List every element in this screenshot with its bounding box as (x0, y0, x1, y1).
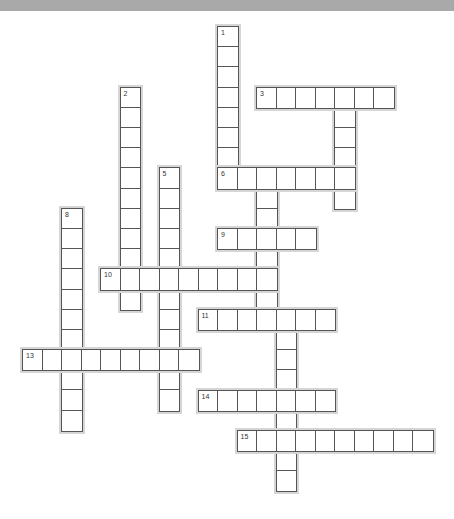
crossword-cell[interactable] (277, 370, 297, 390)
crossword-cell[interactable] (335, 168, 355, 188)
crossword-cell[interactable] (296, 391, 316, 411)
crossword-cell[interactable] (277, 88, 297, 108)
crossword-cell[interactable] (121, 229, 141, 249)
crossword-cell[interactable] (394, 431, 414, 451)
crossword-cell[interactable] (62, 269, 82, 289)
crossword-cell[interactable] (257, 168, 277, 188)
crossword-cell[interactable] (160, 229, 180, 249)
crossword-cell[interactable] (238, 168, 258, 188)
crossword-cell[interactable] (160, 209, 180, 229)
crossword-cell[interactable] (277, 391, 297, 411)
crossword-cell[interactable] (62, 330, 82, 350)
crossword-cell[interactable] (316, 310, 336, 330)
crossword-cell[interactable] (257, 249, 277, 269)
crossword-cell[interactable] (218, 47, 238, 67)
crossword-cell[interactable] (62, 249, 82, 269)
crossword-cell[interactable] (413, 431, 433, 451)
crossword-cell[interactable] (218, 310, 238, 330)
crossword-cell[interactable] (277, 168, 297, 188)
crossword-cell[interactable] (218, 108, 238, 128)
crossword-cell[interactable]: 8 (62, 209, 82, 229)
crossword-cell[interactable] (160, 310, 180, 330)
crossword-cell[interactable] (335, 88, 355, 108)
crossword-cell[interactable] (218, 67, 238, 87)
crossword-cell[interactable] (121, 189, 141, 209)
crossword-cell[interactable] (257, 229, 277, 249)
crossword-cell[interactable] (62, 411, 82, 431)
crossword-cell[interactable] (335, 108, 355, 128)
crossword-cell[interactable] (335, 148, 355, 168)
crossword-cell[interactable] (160, 189, 180, 209)
crossword-cell[interactable] (62, 229, 82, 249)
crossword-cell[interactable] (121, 209, 141, 229)
crossword-cell[interactable]: 5 (160, 168, 180, 188)
crossword-cell[interactable] (160, 290, 180, 310)
crossword-cell[interactable] (257, 290, 277, 310)
crossword-cell[interactable] (121, 350, 141, 370)
crossword-cell[interactable] (296, 168, 316, 188)
crossword-cell[interactable] (160, 330, 180, 350)
crossword-cell[interactable] (355, 88, 375, 108)
crossword-cell[interactable] (277, 451, 297, 471)
crossword-cell[interactable] (43, 350, 63, 370)
crossword-cell[interactable] (277, 431, 297, 451)
crossword-cell[interactable] (238, 269, 258, 289)
crossword-cell[interactable] (316, 88, 336, 108)
crossword-cell[interactable] (160, 249, 180, 269)
crossword-cell[interactable] (374, 431, 394, 451)
crossword-cell[interactable] (199, 269, 219, 289)
crossword-cell[interactable] (238, 310, 258, 330)
crossword-cell[interactable] (316, 431, 336, 451)
crossword-cell[interactable] (218, 269, 238, 289)
crossword-cell[interactable] (121, 168, 141, 188)
crossword-cell[interactable] (101, 350, 121, 370)
crossword-cell[interactable]: 10 (101, 269, 121, 289)
crossword-cell[interactable] (374, 88, 394, 108)
crossword-cell[interactable] (179, 269, 199, 289)
crossword-cell[interactable] (257, 189, 277, 209)
crossword-cell[interactable]: 3 (257, 88, 277, 108)
crossword-cell[interactable]: 14 (199, 391, 219, 411)
crossword-cell[interactable] (257, 431, 277, 451)
crossword-cell[interactable] (160, 269, 180, 289)
crossword-cell[interactable] (335, 128, 355, 148)
crossword-cell[interactable] (62, 310, 82, 330)
crossword-cell[interactable]: 2 (121, 88, 141, 108)
crossword-cell[interactable] (277, 310, 297, 330)
crossword-cell[interactable] (218, 148, 238, 168)
crossword-cell[interactable] (62, 350, 82, 370)
crossword-cell[interactable] (296, 229, 316, 249)
crossword-cell[interactable]: 15 (238, 431, 258, 451)
crossword-cell[interactable] (296, 88, 316, 108)
crossword-cell[interactable] (121, 289, 141, 309)
crossword-cell[interactable] (257, 391, 277, 411)
crossword-cell[interactable] (140, 350, 160, 370)
crossword-cell[interactable] (257, 269, 277, 289)
crossword-cell[interactable] (277, 229, 297, 249)
crossword-cell[interactable] (335, 431, 355, 451)
crossword-cell[interactable] (160, 370, 180, 390)
crossword-cell[interactable] (121, 108, 141, 128)
crossword-cell[interactable] (121, 148, 141, 168)
crossword-cell[interactable]: 1 (218, 27, 238, 47)
crossword-cell[interactable] (179, 350, 199, 370)
crossword-cell[interactable] (121, 269, 141, 289)
crossword-cell[interactable]: 13 (23, 350, 43, 370)
crossword-cell[interactable] (257, 209, 277, 229)
crossword-cell[interactable] (316, 391, 336, 411)
crossword-cell[interactable] (277, 411, 297, 431)
crossword-cell[interactable] (238, 229, 258, 249)
crossword-cell[interactable] (238, 391, 258, 411)
crossword-cell[interactable] (218, 88, 238, 108)
crossword-cell[interactable] (62, 370, 82, 390)
crossword-cell[interactable] (160, 350, 180, 370)
crossword-cell[interactable] (218, 391, 238, 411)
crossword-cell[interactable] (277, 350, 297, 370)
crossword-cell[interactable] (277, 330, 297, 350)
crossword-cell[interactable] (121, 128, 141, 148)
crossword-cell[interactable] (335, 189, 355, 209)
crossword-cell[interactable] (121, 249, 141, 269)
crossword-cell[interactable] (296, 310, 316, 330)
crossword-cell[interactable] (355, 431, 375, 451)
crossword-cell[interactable] (62, 290, 82, 310)
